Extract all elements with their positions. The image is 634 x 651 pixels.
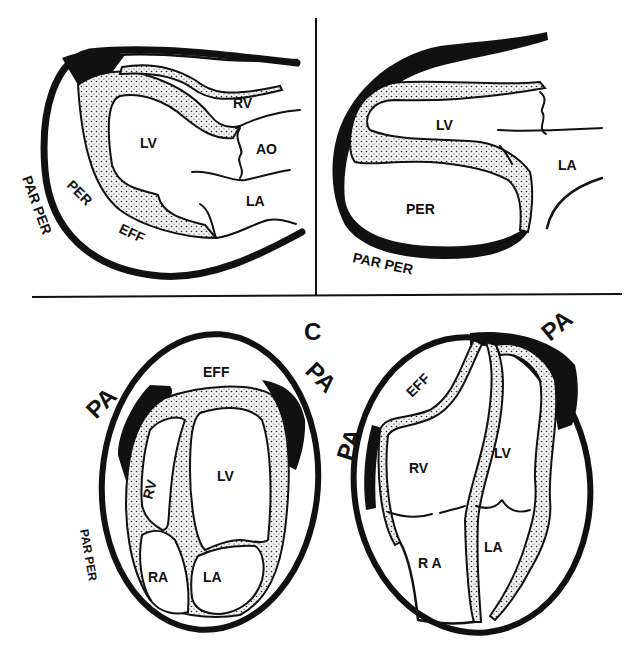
- label-per: PER: [406, 201, 435, 217]
- horizontal-divider: [32, 294, 622, 297]
- pericardial-thickening-top: [470, 332, 578, 430]
- label-ra: RA: [148, 569, 168, 585]
- panel-top-left: RV LV AO LA PER EFF PAR PER: [19, 50, 302, 277]
- label-la: LA: [558, 157, 577, 173]
- label-eff: EFF: [203, 364, 230, 380]
- label-eff: EFF: [117, 220, 148, 246]
- septum: [465, 342, 503, 622]
- tricuspid-valve: [388, 506, 465, 517]
- label-eff: EFF: [403, 370, 433, 400]
- label-la: LA: [484, 539, 503, 555]
- panel-bottom-left: EFF PA PA RV LV RA LA PAR PER: [77, 327, 342, 637]
- panel-top-right: LV LA PER PAR PER: [332, 32, 602, 278]
- echo-diagram: RV LV AO LA PER EFF PAR PER LV LA PER PA…: [0, 0, 634, 651]
- panel-bottom-right: EFF PA PA RV LV R A LA: [331, 305, 605, 645]
- mitral-valve: [476, 500, 530, 512]
- label-lv: LV: [217, 468, 235, 484]
- label-rv: RV: [233, 95, 253, 111]
- label-lv: LV: [436, 117, 454, 133]
- label-par-per: PAR PER: [77, 528, 100, 582]
- label-rv: RV: [409, 460, 429, 476]
- label-ao: AO: [256, 141, 277, 157]
- la-wall-upper: [498, 128, 602, 131]
- label-pa-right: PA: [536, 305, 578, 346]
- label-lv: LV: [140, 135, 158, 151]
- label-lv: LV: [494, 445, 512, 461]
- panel-c-label: C: [304, 318, 321, 345]
- label-pa-right: PA: [300, 356, 341, 397]
- mitral-valve: [540, 92, 546, 134]
- label-la: LA: [246, 193, 265, 209]
- lv-myocardium: [350, 82, 545, 232]
- aortic-valve: [237, 128, 242, 178]
- rv-lower-line: [236, 110, 300, 128]
- la-curve: [547, 178, 602, 228]
- la-wall: [200, 204, 296, 238]
- label-per: PER: [64, 177, 96, 209]
- label-la: LA: [203, 569, 222, 585]
- label-ra: R A: [418, 555, 442, 571]
